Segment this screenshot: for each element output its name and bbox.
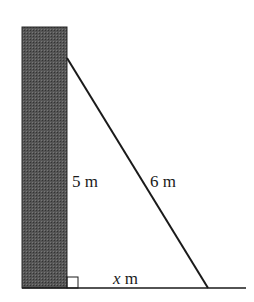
wall <box>22 27 67 288</box>
ladder-diagram: 5 m 6 m x m <box>0 0 254 302</box>
base-unit: m <box>121 269 138 288</box>
base-length-label: x m <box>112 269 138 288</box>
ladder-length-label: 6 m <box>150 172 176 191</box>
right-angle-marker <box>67 277 78 288</box>
wall-height-label: 5 m <box>72 172 98 191</box>
